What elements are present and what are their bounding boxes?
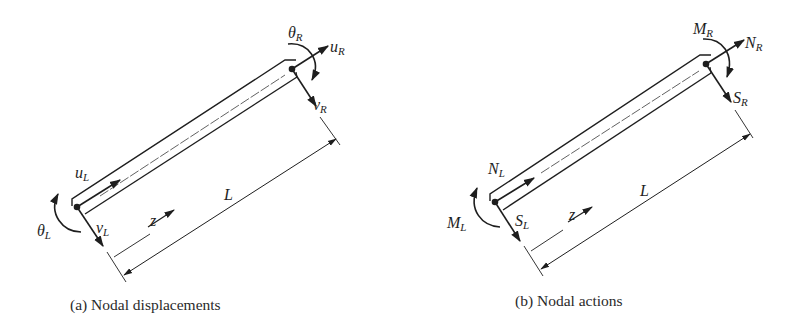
- label-z-axis: z: [568, 206, 576, 223]
- label-S-left: SL: [515, 212, 529, 231]
- label-theta-right: θR: [288, 24, 303, 43]
- label-S-right: SR: [733, 89, 748, 108]
- label-v-left: vL: [96, 219, 109, 238]
- left-axial-arrow: [495, 178, 534, 202]
- panel-a-nodal-displacements: uL vL θL uR vR θR z L (a) Nodal displace…: [37, 24, 345, 314]
- panel-b-nodal-actions: NL SL ML NR SR MR z L (b) Nodal actions: [446, 20, 763, 310]
- right-axial-arrow: [706, 40, 744, 64]
- right-axial-arrow: [292, 46, 328, 69]
- beam-element: [72, 60, 297, 214]
- length-dimension: [524, 110, 753, 276]
- caption-a: (a) Nodal displacements: [70, 296, 221, 314]
- caption-b: (b) Nodal actions: [515, 292, 623, 310]
- label-theta-left: θL: [37, 222, 51, 241]
- beam-element-diagram: uL vL θL uR vR θR z L (a) Nodal displace…: [0, 0, 808, 335]
- left-axial-arrow: [77, 180, 120, 207]
- beam-element: [490, 55, 711, 210]
- label-u-right: uR: [330, 38, 345, 57]
- label-z-axis: z: [149, 212, 157, 229]
- label-M-right: MR: [692, 20, 713, 39]
- label-N-left: NL: [487, 160, 505, 179]
- label-length: L: [223, 186, 233, 203]
- label-length: L: [639, 182, 649, 199]
- label-M-left: ML: [446, 214, 466, 233]
- left-rotation-arrow: [474, 188, 500, 227]
- label-v-right: vR: [313, 96, 327, 115]
- left-rotation-arrow: [55, 194, 81, 232]
- right-transverse-arrow: [706, 64, 731, 102]
- label-N-right: NR: [744, 34, 763, 53]
- label-u-left: uL: [75, 164, 89, 183]
